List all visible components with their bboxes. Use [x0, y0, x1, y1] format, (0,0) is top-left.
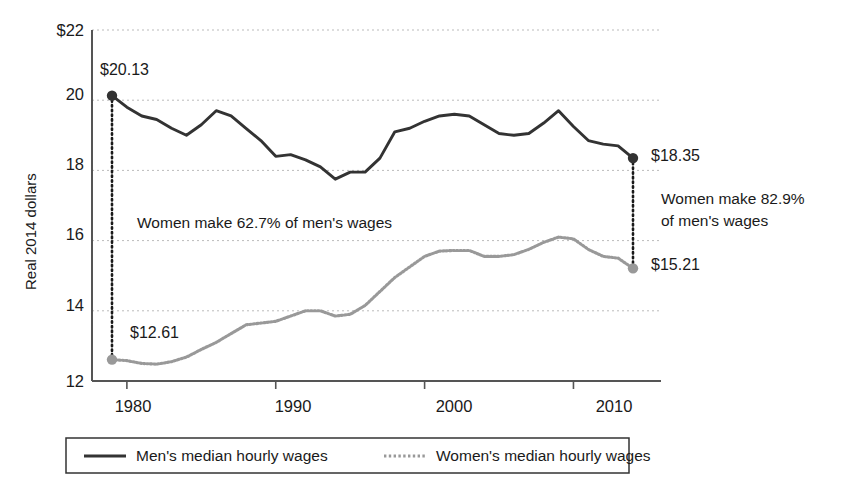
ratio-end-annotation-line1: Women make 82.9% [661, 190, 805, 207]
legend-label-men: Men's median hourly wages [136, 447, 328, 464]
x-tick-label-1980: 1980 [115, 397, 152, 415]
legend-label-women: Women's median hourly wages [436, 447, 651, 464]
y-tick-label-16: 16 [66, 225, 84, 243]
y-tick-label-14: 14 [66, 296, 84, 314]
x-tick-label-2010: 2010 [596, 397, 633, 415]
womens-end-marker [628, 263, 638, 273]
mens-end-marker [628, 153, 638, 163]
womens-start-marker [107, 354, 117, 364]
y-tick-label-18: 18 [66, 155, 84, 173]
womens-end-value-label: $15.21 [651, 256, 700, 273]
mens-end-value-label: $18.35 [651, 147, 700, 164]
y-axis-title: Real 2014 dollars [22, 173, 39, 290]
legend: Men's median hourly wages Women's median… [66, 438, 651, 473]
mens-wage-line [112, 96, 633, 180]
x-tick-label-2000: 2000 [436, 397, 473, 415]
x-axis-ticks [127, 381, 574, 389]
y-tick-label-12: 12 [66, 372, 84, 390]
y-tick-label-20: 20 [66, 85, 84, 103]
chart-canvas: $22 20 18 16 14 12 1980 1990 2000 2010 R… [0, 0, 853, 501]
gridlines [92, 30, 661, 311]
x-tick-label-1990: 1990 [275, 397, 312, 415]
wage-gap-line-chart: $22 20 18 16 14 12 1980 1990 2000 2010 R… [0, 0, 853, 501]
y-tick-label-22: $22 [56, 21, 84, 39]
mens-start-marker [107, 90, 117, 100]
womens-start-value-label: $12.61 [130, 324, 179, 341]
ratio-end-annotation-line2: of men's wages [661, 212, 768, 229]
mens-start-value-label: $20.13 [100, 61, 149, 78]
ratio-start-annotation: Women make 62.7% of men's wages [137, 214, 392, 231]
womens-wage-line [112, 237, 633, 364]
